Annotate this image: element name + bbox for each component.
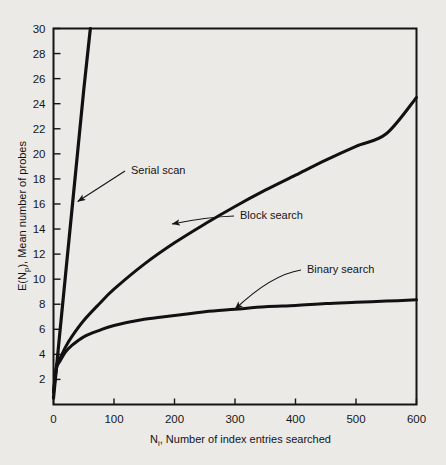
y-axis-title: E(Np), Mean number of probes (16, 141, 31, 291)
annotation-arrows (78, 171, 301, 309)
y-tick-label: 24 (33, 98, 46, 110)
x-axis-title-main: N (150, 433, 158, 445)
x-tick-label: 100 (104, 413, 123, 425)
x-axis-title: Ni, Number of index entries searched (150, 433, 331, 448)
annotation-arrow (172, 216, 234, 224)
annotation-label-serial-scan: Serial scan (131, 164, 185, 176)
y-axis-title-pre: E(N (16, 272, 28, 291)
x-tick-label: 300 (225, 413, 244, 425)
series-line-block-search (54, 97, 417, 392)
y-tick-label: 10 (33, 273, 46, 285)
series-line-serial-scan (54, 29, 91, 399)
y-tick-label: 20 (33, 148, 46, 160)
y-tick-label: 8 (39, 298, 45, 310)
annotation-label-block-search: Block search (240, 209, 303, 221)
x-axis-title-rest: , Number of index entries searched (160, 433, 331, 445)
y-tick-label: 12 (33, 248, 46, 260)
y-tick-label: 2 (39, 373, 45, 385)
y-tick-label: 14 (33, 223, 46, 235)
plot-frame (54, 29, 417, 405)
y-tick-label: 4 (39, 348, 46, 360)
y-tick-label: 6 (39, 323, 45, 335)
y-tick-label: 16 (33, 198, 46, 210)
annotation-arrow (235, 270, 301, 309)
y-tick-label: 30 (33, 23, 46, 35)
y-tick-label: 26 (33, 73, 46, 85)
y-tick-label: 22 (33, 123, 46, 135)
y-axis-title-post: ), Mean number of probes (16, 141, 28, 268)
chart-figure: 0100200300400500600 24681012141618202224… (0, 0, 446, 465)
x-tick-label: 400 (286, 413, 305, 425)
x-tick-label: 500 (346, 413, 365, 425)
annotation-label-binary-search: Binary search (307, 263, 374, 275)
annotation-arrow (78, 171, 125, 202)
y-tick-label: 18 (33, 173, 46, 185)
x-tick-label: 600 (407, 413, 426, 425)
series-line-binary-search (54, 300, 417, 392)
x-tick-label: 200 (165, 413, 184, 425)
x-tick-label: 0 (50, 413, 56, 425)
x-axis-tick-labels: 0100200300400500600 (50, 413, 426, 425)
y-axis-tick-labels: 24681012141618202224262830 (33, 23, 46, 386)
y-tick-label: 28 (33, 48, 46, 60)
